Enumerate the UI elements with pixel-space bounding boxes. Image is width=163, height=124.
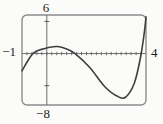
y-min-label: −8 [36,107,50,120]
x-max-label: 4 [151,46,158,59]
viewing-window-frame [22,15,146,105]
plot-canvas [0,0,163,124]
calculator-window-figure: 6 −1 4 −8 [0,0,163,124]
y-max-label: 6 [43,1,50,14]
function-curve [22,17,146,98]
x-min-label: −1 [0,45,16,58]
